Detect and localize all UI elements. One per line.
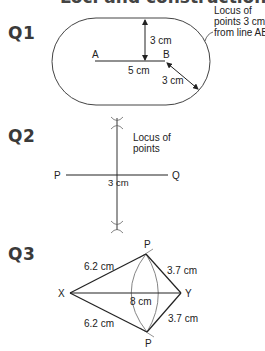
- q1-annotation-leader: [205, 32, 213, 41]
- q1-annotation-line3: from line AB: [214, 27, 265, 38]
- q2-mid-label: 3 cm: [108, 177, 129, 188]
- q2-point-q: Q: [172, 170, 180, 181]
- q2-annotation-line2: points: [133, 143, 160, 154]
- q3-xp-bottom-length: 6.2 cm: [84, 318, 114, 329]
- q1-vertical-distance: 3 cm: [150, 35, 172, 46]
- diagram-canvas: A B 5 cm 3 cm 3 cm Locus of points 3 cm …: [0, 0, 265, 351]
- q2-point-p: P: [54, 170, 61, 181]
- q3-point-p-top: P: [144, 239, 151, 250]
- q3-point-y: Y: [185, 288, 192, 299]
- q1-diagram: A B 5 cm 3 cm 3 cm Locus of points 3 cm …: [52, 5, 265, 105]
- q1-point-b: B: [163, 49, 170, 60]
- q1-annotation-line1: Locus of: [214, 5, 252, 16]
- q1-ab-length: 5 cm: [128, 65, 150, 76]
- q3-xp-top-length: 6.2 cm: [84, 261, 114, 272]
- q3-yp-bottom-length: 3.7 cm: [168, 313, 198, 324]
- q1-diagonal-distance: 3 cm: [162, 75, 184, 86]
- q1-point-a: A: [92, 49, 99, 60]
- q1-annotation-line2: points 3 cm: [214, 16, 265, 27]
- q3-yp-top-length: 3.7 cm: [167, 265, 197, 276]
- q3-point-p-bottom: P: [145, 338, 152, 349]
- q2-diagram: P Q 3 cm Locus of points: [54, 117, 180, 233]
- q3-xy-length: 8 cm: [130, 296, 152, 307]
- q3-point-x: X: [58, 288, 65, 299]
- q3-diagram: X Y P P 6.2 cm 6.2 cm 3.7 cm 3.7 cm 8 cm: [58, 239, 198, 349]
- q2-annotation-line1: Locus of: [133, 132, 171, 143]
